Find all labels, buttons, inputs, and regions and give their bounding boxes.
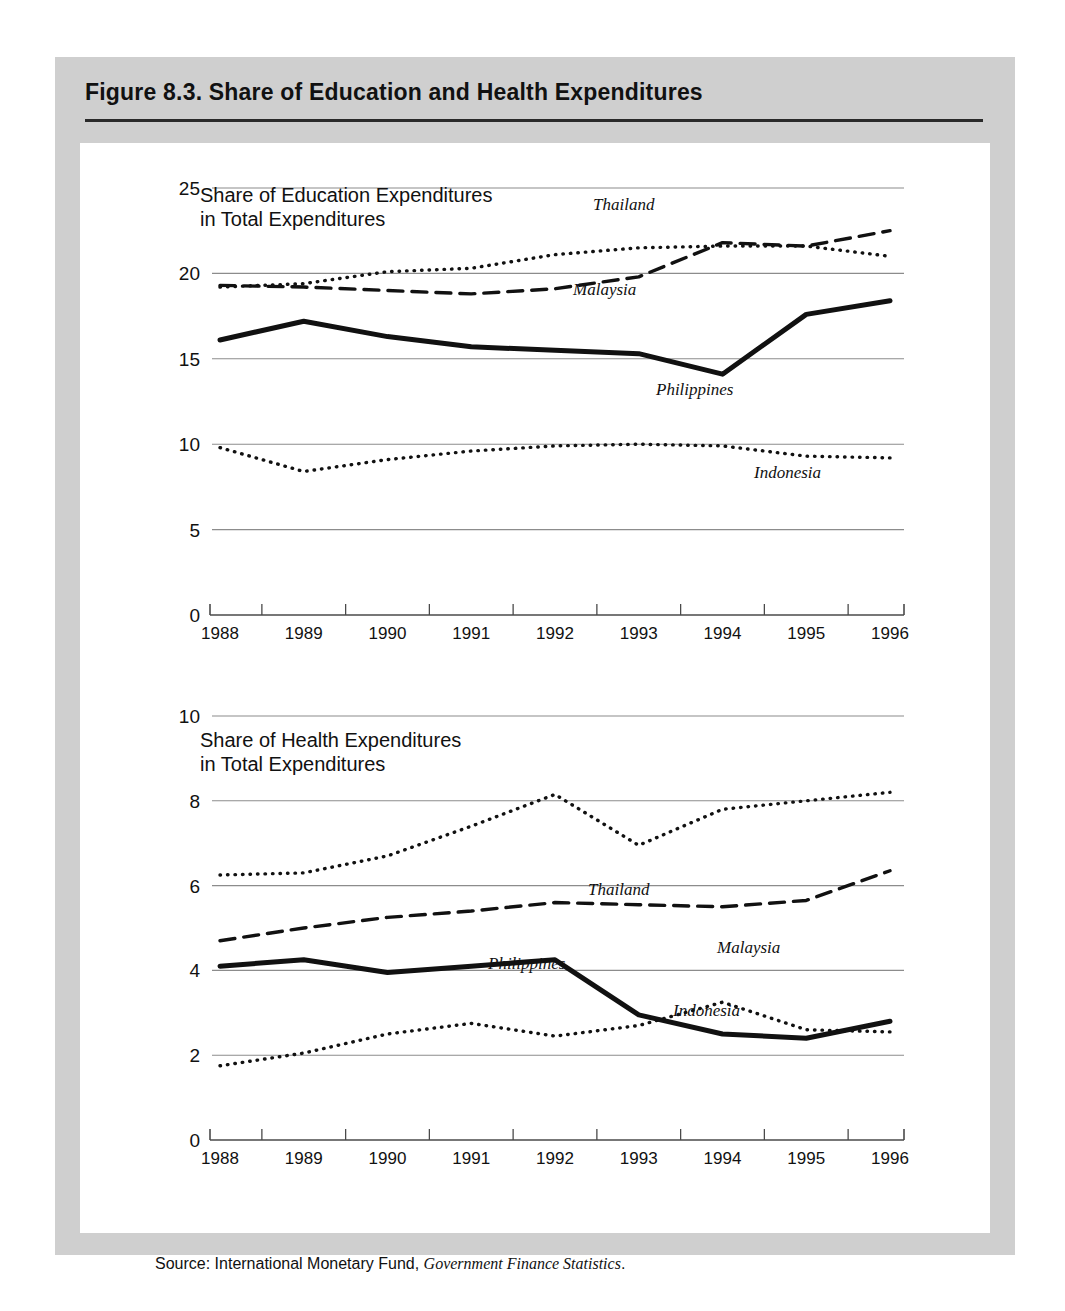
- health-label-thailand: Thailand: [588, 880, 649, 900]
- x-axis-tick-label: 1995: [787, 624, 825, 643]
- source-publication: Government Finance Statistics: [424, 1255, 621, 1272]
- y-axis-tick-label: 15: [179, 349, 200, 370]
- education-label-philippines: Philippines: [656, 380, 733, 400]
- series-line-malaysia: [220, 871, 890, 941]
- x-axis-tick-label: 1989: [285, 624, 323, 643]
- x-axis-tick-label: 1992: [536, 1149, 574, 1168]
- x-axis-tick-label: 1991: [452, 624, 490, 643]
- x-axis-tick-label: 1989: [285, 1149, 323, 1168]
- y-axis-tick-label: 25: [179, 178, 200, 199]
- x-axis-tick-label: 1996: [871, 624, 909, 643]
- x-axis-tick-label: 1994: [704, 624, 742, 643]
- y-axis-tick-label: 10: [179, 434, 200, 455]
- y-axis-tick-label: 10: [179, 706, 200, 727]
- series-line-indonesia: [220, 1002, 890, 1066]
- source-suffix: .: [621, 1255, 625, 1272]
- education-chart: 0510152025198819891990199119921993199419…: [80, 143, 990, 688]
- series-line-malaysia: [220, 231, 890, 294]
- education-label-indonesia: Indonesia: [754, 463, 821, 483]
- y-axis-tick-label: 20: [179, 263, 200, 284]
- x-axis-tick-label: 1992: [536, 624, 574, 643]
- y-axis-tick-label: 6: [189, 876, 200, 897]
- title-divider: [85, 119, 983, 122]
- source-prefix: Source: International Monetary Fund,: [155, 1255, 424, 1272]
- x-axis-tick-label: 1995: [787, 1149, 825, 1168]
- y-axis-tick-label: 2: [189, 1045, 200, 1066]
- y-axis-tick-label: 8: [189, 791, 200, 812]
- figure-title: Figure 8.3. Share of Education and Healt…: [85, 79, 975, 106]
- x-axis-tick-label: 1993: [620, 1149, 658, 1168]
- health-label-indonesia: Indonesia: [673, 1001, 740, 1021]
- figure-frame: Figure 8.3. Share of Education and Healt…: [55, 57, 1015, 1255]
- education-block-title: Share of Education Expenditures in Total…: [200, 183, 492, 232]
- x-axis-tick-label: 1990: [369, 624, 407, 643]
- health-label-malaysia: Malaysia: [717, 938, 780, 958]
- series-line-thailand: [220, 792, 890, 875]
- y-axis-tick-label: 4: [189, 960, 200, 981]
- x-axis-tick-label: 1994: [704, 1149, 742, 1168]
- x-axis-tick-label: 1990: [369, 1149, 407, 1168]
- health-block-title: Share of Health Expenditures in Total Ex…: [200, 728, 461, 777]
- x-axis-tick-label: 1988: [201, 1149, 239, 1168]
- y-axis-tick-label: 5: [189, 520, 200, 541]
- x-axis-tick-label: 1996: [871, 1149, 909, 1168]
- education-label-malaysia: Malaysia: [573, 280, 636, 300]
- health-label-philippines: Philippines: [488, 954, 565, 974]
- x-axis-tick-label: 1988: [201, 624, 239, 643]
- health-chart: 0246810198819891990199119921993199419951…: [80, 688, 990, 1193]
- x-axis-tick-label: 1991: [452, 1149, 490, 1168]
- education-label-thailand: Thailand: [593, 195, 654, 215]
- series-line-thailand: [220, 246, 890, 287]
- chart-panel: 0510152025198819891990199119921993199419…: [80, 143, 990, 1233]
- series-line-philippines: [220, 301, 890, 374]
- y-axis-tick-label: 0: [189, 605, 200, 626]
- y-axis-tick-label: 0: [189, 1130, 200, 1151]
- x-axis-tick-label: 1993: [620, 624, 658, 643]
- source-note: Source: International Monetary Fund, Gov…: [155, 1255, 625, 1273]
